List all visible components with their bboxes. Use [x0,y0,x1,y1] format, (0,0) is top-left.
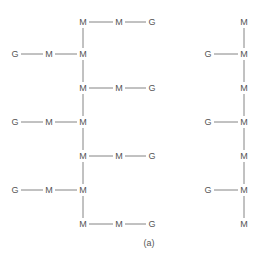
left-mannose-branch-node: M [115,151,123,161]
right-mannose-backbone-node: M [240,185,248,195]
left-mannose-branch-node: M [115,83,123,93]
right-mannose-backbone-node: M [240,17,248,27]
right-mannose-backbone-node: M [240,219,248,229]
right-mannose-backbone-node: M [240,83,248,93]
left-mannose-backbone-node: M [79,185,87,195]
right-mannose-backbone-node: M [240,117,248,127]
left-galactose-branch-node: G [148,219,155,229]
right-galactose-branch-node: G [204,49,211,59]
left-galactose-branch-node: G [148,17,155,27]
left-mannose-backbone-node: M [79,17,87,27]
right-galactose-branch-node: G [204,185,211,195]
left-galactose-branch-node: G [11,185,18,195]
right-galactose-branch-node: G [204,117,211,127]
left-mannose-branch-node: M [115,17,123,27]
galactomannan-structure-diagram: MMMMMMMMGMGMGMGMGMGMGMMMMMMMGGG (a) [0,0,261,264]
left-mannose-backbone-node: M [79,83,87,93]
left-mannose-branch-node: M [115,219,123,229]
left-galactose-branch-node: G [148,151,155,161]
left-mannose-backbone-node: M [79,151,87,161]
left-mannose-backbone-node: M [79,49,87,59]
figure-caption: (a) [144,238,155,248]
left-galactose-branch-node: G [11,117,18,127]
left-mannose-backbone-node: M [79,219,87,229]
right-mannose-backbone-node: M [240,151,248,161]
left-mannose-branch-node: M [45,117,53,127]
left-mannose-backbone-node: M [79,117,87,127]
residue-labels: MMMMMMMMGMGMGMGMGMGMGMMMMMMMGGG [11,17,247,229]
left-mannose-branch-node: M [45,185,53,195]
left-galactose-branch-node: G [11,49,18,59]
left-galactose-branch-node: G [148,83,155,93]
left-mannose-branch-node: M [45,49,53,59]
right-mannose-backbone-node: M [240,49,248,59]
